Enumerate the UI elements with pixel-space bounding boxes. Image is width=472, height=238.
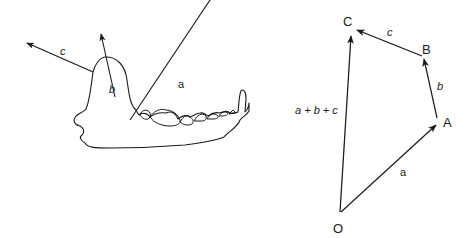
label-a-jaw: a: [178, 78, 185, 90]
jaw-bone-outline: [74, 57, 249, 148]
point-label-c: C: [343, 14, 352, 29]
label-b: b: [437, 80, 443, 92]
label-c-jaw: c: [60, 45, 66, 57]
vector-a-jaw: [130, 0, 224, 120]
label-resultant: a + b + c: [295, 104, 338, 116]
point-label-a: A: [443, 115, 452, 130]
vector-polygon: [340, 30, 437, 212]
vector-b: [424, 59, 437, 118]
vector-a: [341, 125, 436, 212]
jaw-figure: [74, 57, 249, 148]
label-a: a: [400, 166, 407, 178]
vector-resultant: [340, 36, 351, 212]
point-label-b: B: [422, 42, 431, 57]
label-c: c: [387, 26, 393, 38]
point-label-o: O: [333, 221, 343, 236]
diagram-canvas: c b a C B A O c b a a + b + c: [0, 0, 472, 238]
label-b-jaw: b: [109, 83, 115, 95]
